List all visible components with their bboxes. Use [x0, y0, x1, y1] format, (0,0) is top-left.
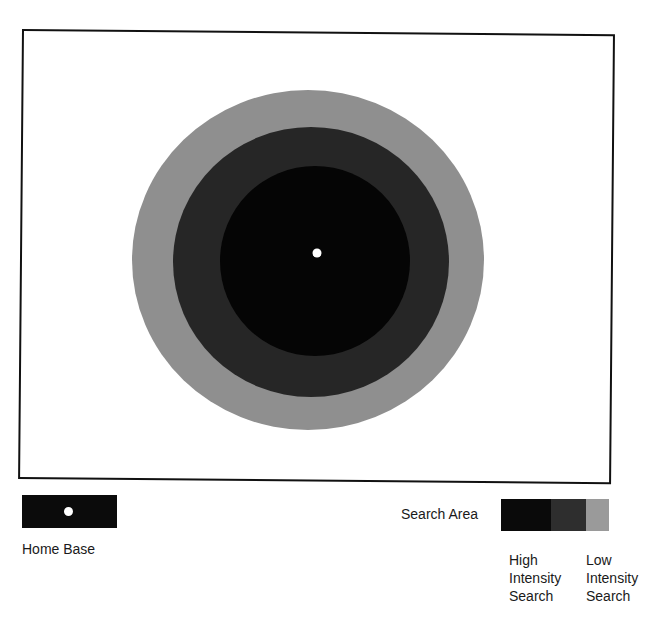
search-scale-segment	[586, 499, 609, 531]
high-intensity-zone	[220, 166, 410, 356]
home-base-legend-swatch	[22, 495, 117, 528]
high-intensity-label: High Intensity Search	[509, 551, 579, 605]
low-intensity-label: Low Intensity Search	[586, 551, 648, 605]
search-scale-segment	[501, 499, 551, 531]
search-area-label: Search Area	[401, 506, 478, 522]
home-base-marker	[313, 249, 322, 258]
search-scale-segment	[551, 499, 586, 531]
home-base-label: Home Base	[22, 541, 95, 557]
home-base-dot-icon	[64, 507, 73, 516]
search-intensity-scale	[501, 499, 609, 531]
